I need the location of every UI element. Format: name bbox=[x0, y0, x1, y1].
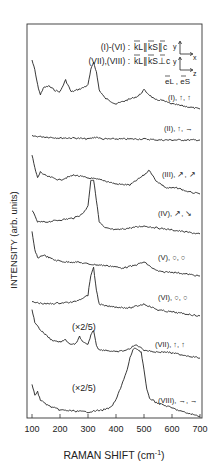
spectrum-line-7 bbox=[32, 310, 200, 359]
spectrum-label: (V), ○, ○ bbox=[158, 253, 185, 262]
spectra-lines bbox=[32, 60, 200, 417]
axis-y-letter: y bbox=[173, 43, 177, 51]
x-tick-label: 700 bbox=[192, 424, 207, 434]
x-tick-label: 400 bbox=[108, 424, 123, 434]
spectrum-line-8 bbox=[32, 348, 200, 417]
x-tick-label: 500 bbox=[136, 424, 151, 434]
axis-y-letter-2: y bbox=[173, 58, 177, 66]
spectrum-label: (VIII), →, → bbox=[158, 396, 198, 405]
raman-spectra-figure: 100200300400500600700 RAMAN SHIFT (cm-1)… bbox=[0, 0, 215, 469]
spectrum-label: (II), ↑, → bbox=[164, 124, 193, 133]
spectrum-line-6 bbox=[32, 267, 200, 316]
x-axis-label: RAMAN SHIFT (cm-1) bbox=[63, 449, 164, 461]
spectrum-label: (VII), ↑, ↑ bbox=[155, 340, 185, 349]
spectrum-label: (III), ↗, ↗ bbox=[162, 170, 196, 179]
polarization-label: eL , eS bbox=[165, 77, 190, 86]
legend-line2-geometry: kL∥kS⊥c bbox=[134, 56, 171, 66]
axis-z-letter: z bbox=[193, 70, 197, 77]
scale-factor-note: (×2/5) bbox=[72, 322, 96, 332]
scale-factor-note: (×2/5) bbox=[72, 383, 96, 393]
x-tick-label: 200 bbox=[52, 424, 67, 434]
x-tick-label: 600 bbox=[164, 424, 179, 434]
y-axis-label: INTENSITY (arb. units) bbox=[8, 191, 19, 289]
x-tick-label: 100 bbox=[24, 424, 39, 434]
spectrum-label: (VI), ○, ○ bbox=[158, 293, 187, 302]
legend-line2-prefix: (VII),(VIII) : bbox=[88, 56, 130, 66]
axes-yz-icon bbox=[179, 57, 194, 72]
x-tick-label: 300 bbox=[80, 424, 95, 434]
spectrum-line-2 bbox=[32, 135, 200, 141]
x-axis-ticks: 100200300400500600700 bbox=[24, 414, 207, 434]
legend-line1-prefix: (I)-(VI) : bbox=[101, 42, 130, 52]
axis-x-letter: x bbox=[193, 54, 197, 61]
spectrum-label: (IV), ↗, ↘ bbox=[158, 209, 192, 218]
axes-yx-icon bbox=[179, 41, 194, 56]
spectrum-label: (I), ↑, ↑ bbox=[168, 93, 191, 102]
scattering-geometry-legend: (I)-(VI) : (VII),(VIII) : kL∥kS∥c kL∥kS⊥… bbox=[88, 41, 197, 86]
legend-line1-geometry: kL∥kS∥c bbox=[134, 42, 168, 52]
